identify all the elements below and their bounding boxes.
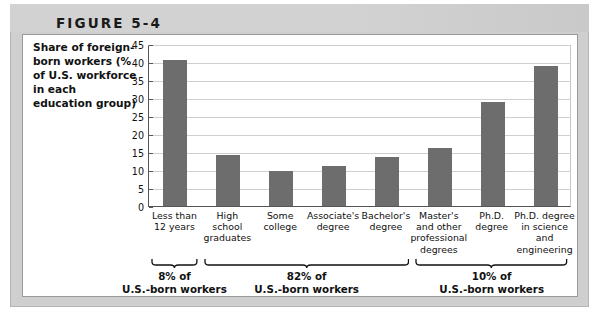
x-axis-label-line: in science <box>513 221 576 232</box>
bar <box>428 148 452 206</box>
gridline <box>149 45 570 46</box>
gridline <box>149 189 570 190</box>
y-axis-tick-label: 30 <box>122 94 144 105</box>
y-axis-tick-label: 25 <box>122 112 144 123</box>
y-axis-tick-mark <box>149 153 153 154</box>
x-axis-label-line: Ph.D. degree <box>513 210 576 221</box>
y-axis-tick-label: 0 <box>122 202 144 213</box>
y-axis-tick-mark <box>149 135 153 136</box>
group-brace <box>151 259 198 268</box>
x-axis-label-line: engineering <box>513 244 576 255</box>
figure-number-label: FIGURE 5-4 <box>56 15 162 31</box>
gridline <box>149 153 570 154</box>
bar <box>163 60 187 206</box>
group-annotation-label: 10% ofU.S.-born workers <box>385 270 598 295</box>
gridline <box>149 99 570 100</box>
y-axis-tick-mark <box>149 99 153 100</box>
x-axis-label-line: professional <box>407 232 470 243</box>
x-axis-label-line: and <box>513 232 576 243</box>
y-axis-tick-label: 5 <box>122 184 144 195</box>
gridline <box>149 117 570 118</box>
figure-header-band: FIGURE 5-4 <box>10 4 589 32</box>
gridline <box>149 135 570 136</box>
bar <box>534 66 558 206</box>
y-axis-tick-mark <box>149 63 153 64</box>
gridline <box>149 63 570 64</box>
group-brace <box>204 259 410 268</box>
y-axis-tick-mark <box>149 81 153 82</box>
bar <box>269 171 293 206</box>
y-axis-tick-labels: 051015202530354045 <box>120 45 144 207</box>
y-axis-tick-mark <box>149 189 153 190</box>
group-annotations: 8% ofU.S.-born workers82% ofU.S.-born wo… <box>148 259 571 297</box>
group-brace <box>415 259 568 268</box>
y-axis-tick-mark <box>149 207 153 208</box>
bar <box>322 166 346 206</box>
y-axis-tick-mark <box>149 171 153 172</box>
x-axis-category-labels: Less than12 yearsHighschoolgraduatesSome… <box>148 210 571 258</box>
x-axis-label-line: graduates <box>196 232 259 243</box>
y-axis-tick-label: 45 <box>122 40 144 51</box>
y-axis-tick-mark <box>149 117 153 118</box>
y-axis-tick-label: 35 <box>122 76 144 87</box>
y-axis-tick-label: 10 <box>122 166 144 177</box>
plot-area <box>148 45 571 207</box>
x-axis-label: Ph.D. degreein scienceandengineering <box>513 210 576 255</box>
bar <box>481 102 505 206</box>
y-axis-tick-label: 40 <box>122 58 144 69</box>
chart-card: Share of foreign-born workers (% of U.S.… <box>22 34 578 297</box>
figure-root: FIGURE 5-4 Share of foreign-born workers… <box>0 0 599 317</box>
group-annotation-line: U.S.-born workers <box>385 283 598 296</box>
x-axis-label-line: degrees <box>407 244 470 255</box>
gridline <box>149 171 570 172</box>
y-axis-tick-label: 20 <box>122 130 144 141</box>
group-annotation-line: 10% of <box>385 270 598 283</box>
bar <box>216 155 240 206</box>
y-axis-tick-label: 15 <box>122 148 144 159</box>
gridline <box>149 81 570 82</box>
bar <box>375 157 399 206</box>
y-axis-tick-mark <box>149 45 153 46</box>
